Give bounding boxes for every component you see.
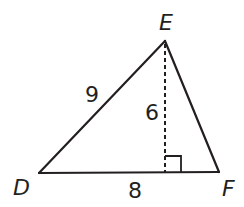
side-ef	[165, 41, 219, 172]
vertex-label-f: F	[222, 176, 235, 201]
vertex-label-d: D	[13, 175, 30, 200]
vertex-label-e: E	[159, 10, 173, 35]
right-angle-marker	[165, 156, 181, 172]
side-length-df: 8	[128, 178, 142, 203]
altitude-length: 6	[145, 100, 159, 125]
side-df	[39, 172, 219, 173]
side-length-de: 9	[85, 82, 99, 107]
triangle-diagram: E D F 9 6 8	[0, 0, 244, 207]
